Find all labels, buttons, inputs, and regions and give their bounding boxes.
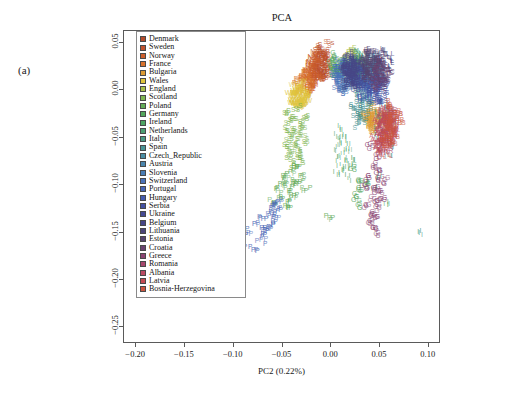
legend-item-label: Bosnia-Herzegovina xyxy=(149,285,215,293)
scatter-point: I xyxy=(336,134,338,141)
scatter-point: L xyxy=(383,154,387,161)
y-tick-label: −0.05 xyxy=(110,119,120,153)
scatter-point: P xyxy=(324,212,329,219)
scatter-point: S xyxy=(323,39,327,45)
scatter-point: I xyxy=(419,227,421,234)
x-tick-label: −0.20 xyxy=(113,349,157,359)
x-tick-mark xyxy=(379,343,380,347)
scatter-point: B xyxy=(382,142,387,149)
scatter-point: S xyxy=(337,87,341,93)
scatter-point: I xyxy=(354,156,356,163)
scatter-point: C xyxy=(381,81,386,88)
legend-swatch-icon xyxy=(140,145,146,151)
legend-swatch-icon xyxy=(140,228,146,234)
scatter-point: P xyxy=(276,215,281,222)
scatter-point: I xyxy=(335,158,337,165)
legend-swatch-icon xyxy=(140,53,146,59)
legend-swatch-icon xyxy=(140,253,146,259)
legend: DenmarkSwedenNorwayFranceBulgariaWalesEn… xyxy=(136,31,246,298)
scatter-point: I xyxy=(333,169,335,176)
x-tick-label: 0.00 xyxy=(308,349,352,359)
scatter-point: S xyxy=(293,115,298,122)
legend-swatch-icon xyxy=(140,111,146,117)
scatter-point: P xyxy=(248,243,252,250)
legend-swatch-icon xyxy=(140,236,146,242)
scatter-point: I xyxy=(334,130,336,137)
y-tick-label: −0.20 xyxy=(110,261,120,295)
scatter-point: I xyxy=(417,229,419,236)
scatter-point: S xyxy=(354,121,359,128)
scatter-point: I xyxy=(348,149,350,156)
scatter-point: I xyxy=(350,147,352,153)
x-tick-mark xyxy=(233,343,234,347)
panel-label: (a) xyxy=(18,64,30,76)
legend-swatch-icon xyxy=(140,161,146,167)
scatter-point: G xyxy=(366,173,371,180)
legend-swatch-icon xyxy=(140,195,146,201)
legend-swatch-icon xyxy=(140,203,146,209)
scatter-point: S xyxy=(348,104,353,111)
scatter-point: S xyxy=(329,71,334,78)
x-tick-mark xyxy=(428,343,429,347)
x-tick-mark xyxy=(282,343,283,347)
x-tick-mark xyxy=(184,343,185,347)
y-tick-label: −0.25 xyxy=(110,308,120,342)
scatter-point: I xyxy=(345,146,347,152)
scatter-point: B xyxy=(341,67,346,74)
scatter-point: G xyxy=(381,196,386,203)
scatter-point: N xyxy=(319,73,324,79)
scatter-point: P xyxy=(256,220,260,226)
scatter-point: B xyxy=(388,143,392,150)
y-tick-label: −0.10 xyxy=(110,166,120,200)
scatter-point: B xyxy=(395,134,399,141)
legend-swatch-icon xyxy=(140,78,146,84)
scatter-point: I xyxy=(338,142,340,148)
x-tick-label: 0.10 xyxy=(406,349,450,359)
scatter-point: L xyxy=(388,151,392,158)
scatter-point: G xyxy=(367,145,372,152)
plot-title: PCA xyxy=(123,12,441,23)
legend-swatch-icon xyxy=(140,186,146,192)
scatter-point: I xyxy=(387,201,389,208)
legend-swatch-icon xyxy=(140,120,146,126)
scatter-point: B xyxy=(353,83,358,90)
legend-swatch-icon xyxy=(140,61,146,67)
scatter-point: I xyxy=(341,167,343,174)
legend-swatch-icon xyxy=(140,270,146,276)
scatter-point: I xyxy=(333,146,335,153)
scatter-point: E xyxy=(358,60,362,67)
scatter-point: P xyxy=(300,185,304,192)
legend-item: Bosnia-Herzegovina xyxy=(140,285,241,293)
scatter-point: P xyxy=(248,230,253,237)
legend-swatch-icon xyxy=(140,170,146,176)
scatter-point: S xyxy=(351,113,356,120)
scatter-point: S xyxy=(363,106,368,113)
x-tick-mark xyxy=(135,343,136,347)
scatter-point: P xyxy=(286,205,291,212)
scatter-point: P xyxy=(255,238,259,245)
scatter-point: S xyxy=(332,85,336,91)
x-tick-label: −0.15 xyxy=(162,349,206,359)
legend-swatch-icon xyxy=(140,136,146,142)
scatter-point: S xyxy=(289,152,294,159)
scatter-point: P xyxy=(283,172,287,179)
legend-swatch-icon xyxy=(140,103,146,109)
scatter-point: S xyxy=(376,97,381,104)
scatter-point: P xyxy=(308,185,313,192)
scatter-point: S xyxy=(298,103,302,110)
legend-swatch-icon xyxy=(140,178,146,184)
y-tick-label: 0.00 xyxy=(110,71,120,105)
legend-swatch-icon xyxy=(140,95,146,101)
scatter-point: I xyxy=(351,161,353,168)
legend-swatch-icon xyxy=(140,45,146,51)
scatter-point: G xyxy=(365,185,371,192)
scatter-point: L xyxy=(377,155,381,162)
legend-swatch-icon xyxy=(140,36,146,42)
scatter-point: N xyxy=(317,58,322,65)
scatter-point: G xyxy=(361,204,366,211)
legend-swatch-icon xyxy=(140,245,146,251)
scatter-point: B xyxy=(393,141,398,148)
legend-swatch-icon xyxy=(140,70,146,76)
legend-swatch-icon xyxy=(140,211,146,217)
pca-figure: (a) PCA 0.050.00−0.05−0.10−0.15−0.20−0.2… xyxy=(0,0,505,397)
